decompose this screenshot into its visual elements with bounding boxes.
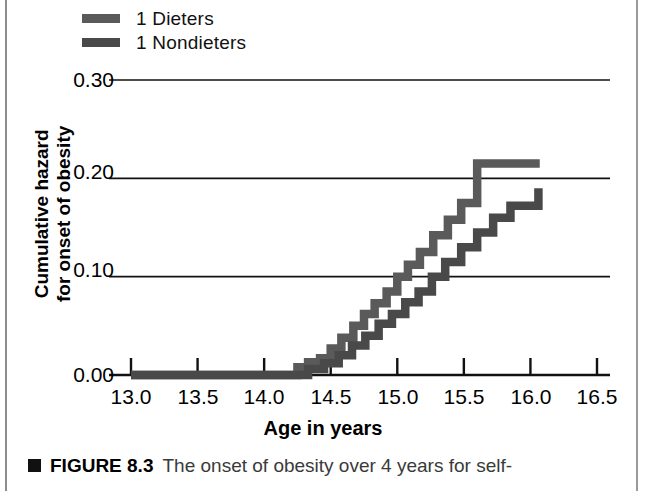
y-axis-title: Cumulative hazard for onset of obesity bbox=[31, 69, 75, 359]
x-axis-title: Age in years bbox=[0, 417, 646, 440]
chart-plot-area: 0.30 0.20 0.10 0.00 13.0 13.5 14.0 14.5 … bbox=[0, 0, 646, 440]
x-tick-label-3: 14.5 bbox=[299, 385, 363, 409]
y-axis-title-line2: for onset of obesity bbox=[53, 69, 75, 359]
x-tick-label-6: 16.0 bbox=[499, 385, 563, 409]
square-marker-icon bbox=[28, 459, 41, 472]
x-tick-label-5: 15.5 bbox=[432, 385, 496, 409]
series-line-dieters bbox=[131, 164, 540, 375]
x-tick-label-7: 16.5 bbox=[565, 385, 629, 409]
caption-figure-number: FIGURE 8.3 bbox=[50, 455, 153, 477]
y-axis-title-line1: Cumulative hazard bbox=[31, 69, 53, 359]
y-tick-label-000: 0.00 bbox=[42, 363, 114, 387]
x-tick-label-0: 13.0 bbox=[99, 385, 163, 409]
x-tick-label-1: 13.5 bbox=[166, 385, 230, 409]
x-tick-label-2: 14.0 bbox=[232, 385, 296, 409]
gridlines bbox=[109, 80, 610, 375]
x-tick-label-4: 15.0 bbox=[366, 385, 430, 409]
series-paths bbox=[131, 164, 540, 375]
caption-text: The onset of obesity over 4 years for se… bbox=[162, 455, 512, 477]
figure-caption: FIGURE 8.3 The onset of obesity over 4 y… bbox=[28, 455, 628, 477]
